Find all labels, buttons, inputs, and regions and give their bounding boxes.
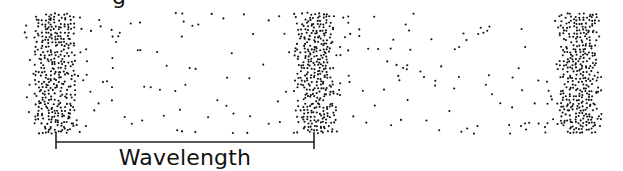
cropped-title-fragment: g <box>112 0 126 9</box>
longitudinal-wave-diagram <box>0 0 623 171</box>
particle-dots <box>24 12 603 135</box>
wavelength-label: Wavelength <box>117 145 253 170</box>
